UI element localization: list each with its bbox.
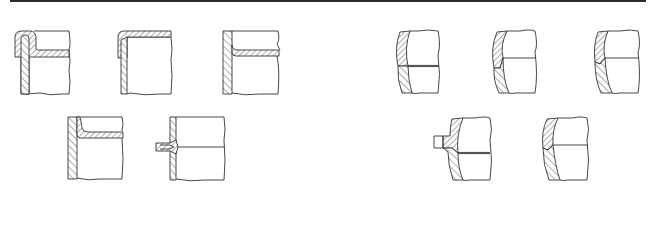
figure-h (594, 30, 639, 94)
figure-j (543, 117, 589, 181)
figure-d (68, 117, 123, 180)
figure-c (223, 31, 280, 95)
figure-e (156, 117, 225, 181)
figure-b (118, 31, 172, 95)
figure-a (15, 31, 70, 95)
figure-i (434, 117, 492, 181)
figure-g (493, 30, 537, 94)
figure-f (396, 30, 439, 94)
joint-diagram (0, 0, 657, 225)
